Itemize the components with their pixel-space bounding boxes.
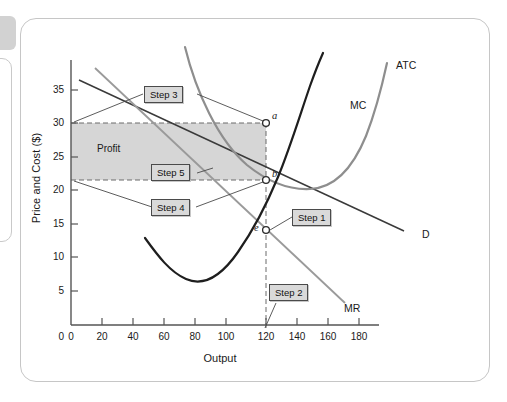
step4-leader-right bbox=[196, 182, 263, 207]
point-b-marker bbox=[263, 177, 270, 184]
point-b-label: b bbox=[272, 168, 277, 179]
step4-leader-left bbox=[74, 181, 152, 207]
point-a-label: a bbox=[272, 110, 277, 121]
x-tick-0: 0 bbox=[58, 331, 84, 342]
x-tick-180: 180 bbox=[346, 331, 372, 342]
step-4-callout[interactable]: Step 4 bbox=[151, 199, 190, 216]
y-tick-5: 5 bbox=[42, 285, 64, 296]
y-tick-10: 10 bbox=[42, 251, 64, 262]
y-axis-title: Price and Cost ($) bbox=[30, 118, 42, 238]
step-2-callout[interactable]: Step 2 bbox=[269, 284, 308, 301]
x-tick-120: 120 bbox=[253, 331, 279, 342]
y-tick-25: 25 bbox=[42, 151, 64, 162]
y-tick-15: 15 bbox=[42, 218, 64, 229]
y-tick-30: 30 bbox=[42, 117, 64, 128]
step-5-callout[interactable]: Step 5 bbox=[151, 164, 190, 181]
y-tick-35: 35 bbox=[42, 84, 64, 95]
step1-leader bbox=[270, 217, 292, 230]
x-axis-ticks bbox=[102, 318, 359, 325]
figure-root: Price and Cost ($) Output 35 30 25 20 15… bbox=[0, 0, 507, 402]
step2-leader bbox=[265, 303, 276, 328]
x-tick-60: 60 bbox=[151, 331, 177, 342]
step-1-callout[interactable]: Step 1 bbox=[292, 209, 331, 226]
step-3-callout[interactable]: Step 3 bbox=[144, 86, 183, 103]
x-tick-100: 100 bbox=[213, 331, 239, 342]
x-tick-80: 80 bbox=[182, 331, 208, 342]
demand-curve-label: D bbox=[422, 228, 430, 240]
point-e-label: e bbox=[254, 222, 259, 233]
x-tick-160: 160 bbox=[315, 331, 341, 342]
x-tick-40: 40 bbox=[120, 331, 146, 342]
mc-curve-label: MC bbox=[350, 99, 366, 111]
x-tick-140: 140 bbox=[284, 331, 310, 342]
x-tick-20: 20 bbox=[89, 331, 115, 342]
point-a-marker bbox=[263, 120, 270, 127]
mr-curve-label: MR bbox=[344, 302, 360, 314]
profit-area-label: Profit bbox=[97, 143, 120, 154]
point-e-marker bbox=[263, 227, 270, 234]
x-axis-title: Output bbox=[175, 352, 265, 364]
atc-curve-label: ATC bbox=[396, 59, 416, 71]
y-tick-20: 20 bbox=[42, 184, 64, 195]
y-axis-ticks bbox=[71, 90, 78, 291]
step3-leader-left bbox=[74, 94, 143, 122]
